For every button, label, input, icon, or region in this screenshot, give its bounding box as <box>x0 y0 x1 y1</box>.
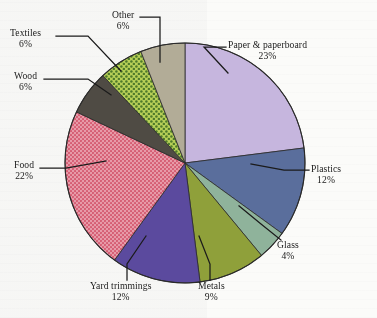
slice-label-wood: Wood 6% <box>14 71 37 92</box>
slice-label-value: 22% <box>14 171 34 182</box>
slice-label-metals: Metals 9% <box>198 281 225 302</box>
slice-label-value: 23% <box>228 51 307 62</box>
slice-label-value: 9% <box>198 292 225 303</box>
slice-label-paper-paperboard: Paper & paperboard 23% <box>228 40 307 61</box>
slice-label-glass: Glass 4% <box>277 240 299 261</box>
slice-label-value: 6% <box>10 39 41 50</box>
slice-label-value: 12% <box>90 292 151 303</box>
slice-label-textiles: Textiles 6% <box>10 28 41 49</box>
leader-line-textiles <box>56 36 121 71</box>
slice-label-value: 6% <box>112 21 134 32</box>
slice-label-food: Food 22% <box>14 160 34 181</box>
pie-slices <box>65 43 305 283</box>
slice-label-value: 12% <box>311 175 341 186</box>
slice-label-plastics: Plastics 12% <box>311 164 341 185</box>
pie-chart-figure: Paper & paperboard 23% Plastics 12% Glas… <box>0 0 377 318</box>
slice-label-other: Other 6% <box>112 10 134 31</box>
slice-label-yard-trimmings: Yard trimmings 12% <box>90 281 151 302</box>
pie-chart-canvas <box>0 0 377 318</box>
slice-label-value: 4% <box>277 251 299 262</box>
slice-label-value: 6% <box>14 82 37 93</box>
